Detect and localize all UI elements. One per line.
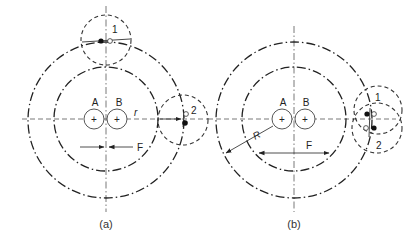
open-dot-2 xyxy=(364,126,369,131)
figure: 1 2 r + + A B F (a) 1 xyxy=(0,0,416,244)
filled-dot-2 xyxy=(182,120,188,126)
filled-dot-1 xyxy=(98,38,103,43)
label-B: B xyxy=(116,97,123,108)
label-A: A xyxy=(280,97,287,108)
label-r: r xyxy=(134,107,138,118)
label-2: 2 xyxy=(376,140,382,151)
open-dot-2 xyxy=(184,112,189,117)
label-R: R xyxy=(251,129,263,142)
plus-a: + xyxy=(91,114,97,125)
label-B: B xyxy=(303,97,310,108)
plus-b: + xyxy=(302,114,308,125)
filled-dot-1 xyxy=(364,111,369,116)
label-F: F xyxy=(137,142,143,153)
label-A: A xyxy=(92,97,99,108)
open-dot-1 xyxy=(372,112,377,117)
caption-a: (a) xyxy=(99,218,112,230)
label-2: 2 xyxy=(191,105,197,116)
caption-b: (b) xyxy=(287,218,300,230)
open-dot-1 xyxy=(108,39,113,44)
radius-R-arrow xyxy=(226,126,273,153)
label-1: 1 xyxy=(375,92,381,103)
planet-circle-2 xyxy=(158,95,208,145)
label-1: 1 xyxy=(112,24,118,35)
diagram-a: 1 2 r + + A B F (a) xyxy=(22,6,208,230)
label-F: F xyxy=(306,140,312,151)
diagram-b: 1 2 + + A B R F (b) xyxy=(208,26,402,230)
filled-dot-2 xyxy=(371,125,376,130)
plus-a: + xyxy=(279,114,285,125)
plus-b: + xyxy=(114,114,120,125)
